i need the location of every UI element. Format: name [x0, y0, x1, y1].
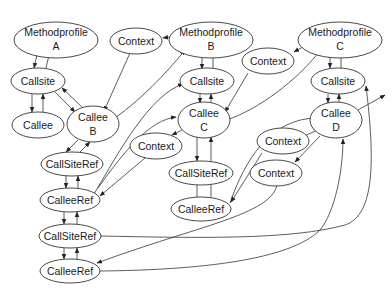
- node-label: Context: [258, 167, 294, 179]
- node-context-c: Context: [242, 48, 294, 74]
- node-label: Callee: [78, 111, 108, 123]
- node-label: Callee: [189, 107, 219, 119]
- node-label: Context: [118, 35, 154, 47]
- node-context-d2: Context: [250, 160, 302, 186]
- call-graph-diagram: Methodprofile A Context Methodprofile B …: [0, 0, 392, 293]
- node-label: Callee: [321, 107, 351, 119]
- node-label: Methodprofile: [179, 26, 243, 38]
- node-context-mid: Context: [130, 133, 182, 159]
- node-label: CalleeRef: [47, 265, 93, 277]
- node-label: CallSiteRef: [44, 230, 97, 242]
- node-label: Methodprofile: [308, 26, 372, 38]
- node-calleeref-c: CalleeRef: [171, 197, 231, 221]
- edge-calleeb-csa: [62, 88, 83, 108]
- node-calleeref-2: CalleeRef: [40, 259, 100, 283]
- node-methodprofile-b: Methodprofile B: [169, 22, 253, 58]
- edge-csa-calleeb: [55, 92, 75, 112]
- node-sublabel: C: [200, 121, 208, 133]
- node-callsite-b: Callsite: [180, 68, 234, 94]
- node-callsite-a: Callsite: [11, 68, 65, 94]
- edge-calleeb-mpb: [115, 50, 185, 118]
- node-calleeref-b: CalleeRef: [40, 188, 100, 212]
- node-label: Context: [265, 135, 301, 147]
- node-label: Context: [250, 55, 286, 67]
- node-callsiteref-b: CallSiteRef: [41, 152, 103, 176]
- edge-calleeb-csrb: [66, 140, 78, 152]
- node-sublabel: B: [89, 125, 96, 137]
- node-methodprofile-a: Methodprofile A: [14, 22, 98, 58]
- edge-csrb-calleeb: [80, 142, 90, 152]
- node-callsite-c: Callsite: [311, 68, 365, 94]
- node-label: Callsite: [21, 75, 56, 87]
- node-context-d1: Context: [257, 128, 309, 154]
- node-label: CallSiteRef: [175, 167, 228, 179]
- node-label: Methodprofile: [24, 26, 88, 38]
- node-label: CalleeRef: [47, 194, 93, 206]
- node-label: Context: [138, 140, 174, 152]
- node-sublabel: A: [52, 40, 59, 52]
- node-label: CalleeRef: [178, 203, 224, 215]
- node-callee-b: Callee B: [67, 106, 119, 142]
- node-sublabel: B: [207, 40, 214, 52]
- edge-ctxmid-crb: [100, 158, 145, 196]
- node-label: Callee: [23, 119, 53, 131]
- edge-ctxd2-cr2: [97, 185, 277, 263]
- node-callsiteref-c: CallSiteRef: [169, 161, 233, 185]
- edge-ctxtop-calleeb: [104, 53, 130, 111]
- node-methodprofile-c: Methodprofile C: [298, 22, 382, 58]
- edge-calleed-out: [358, 95, 385, 110]
- node-callee-a: Callee: [12, 112, 64, 138]
- node-label: Callsite: [321, 75, 356, 87]
- node-callee-c: Callee C: [178, 102, 230, 138]
- node-label: CallSiteRef: [46, 158, 99, 170]
- node-callee-d: Callee D: [310, 102, 362, 138]
- node-label: Callsite: [190, 75, 225, 87]
- node-callsiteref-2: CallSiteRef: [39, 224, 101, 248]
- node-sublabel: C: [336, 40, 344, 52]
- edge-calleec-ctxmid: [172, 130, 182, 135]
- node-context-top: Context: [110, 28, 162, 54]
- node-sublabel: D: [332, 121, 340, 133]
